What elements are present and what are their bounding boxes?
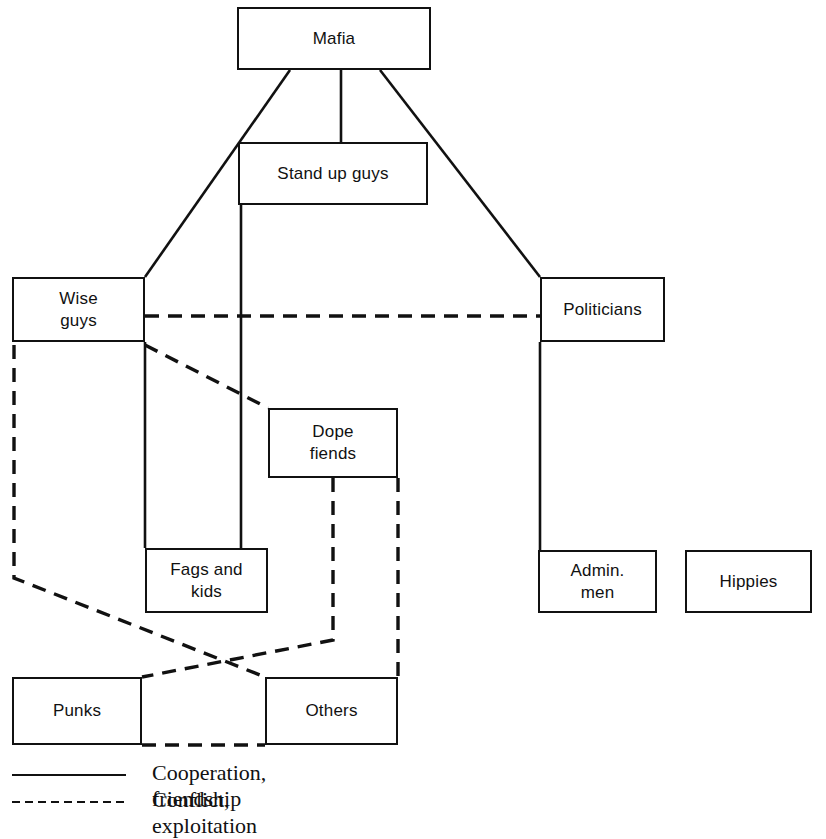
node-fagskids[interactable]: Fags and kids — [145, 548, 268, 613]
node-others[interactable]: Others — [265, 677, 398, 745]
edge-wiseguys-dope — [145, 345, 268, 408]
node-politicians[interactable]: Politicians — [540, 277, 665, 342]
node-label-punks: Punks — [53, 700, 101, 722]
node-label-hippies: Hippies — [719, 571, 777, 593]
node-label-others: Others — [305, 700, 357, 722]
legend-label-conflict: Conflict, exploitation — [152, 787, 257, 839]
node-label-admin: Admin. men — [570, 560, 624, 604]
legend: Cooperation, friendship Conflict, exploi… — [0, 756, 826, 817]
legend-swatch-conflict — [12, 796, 126, 808]
node-standup[interactable]: Stand up guys — [238, 142, 428, 205]
node-label-wiseguys: Wise guys — [59, 288, 98, 332]
node-punks[interactable]: Punks — [12, 677, 142, 745]
node-label-fagskids: Fags and kids — [170, 559, 242, 603]
node-dope[interactable]: Dope fiends — [268, 408, 398, 478]
node-hippies[interactable]: Hippies — [685, 550, 812, 613]
node-admin[interactable]: Admin. men — [538, 550, 657, 613]
node-label-dope: Dope fiends — [310, 421, 357, 465]
node-wiseguys[interactable]: Wise guys — [12, 277, 145, 342]
node-label-standup: Stand up guys — [277, 163, 388, 185]
node-mafia[interactable]: Mafia — [237, 7, 431, 70]
edge-wiseguys-others — [14, 345, 265, 677]
node-label-politicians: Politicians — [563, 299, 642, 321]
legend-swatch-cooperation — [12, 769, 126, 781]
node-label-mafia: Mafia — [313, 28, 356, 50]
